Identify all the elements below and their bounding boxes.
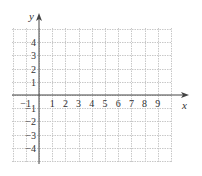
x-tick-label: 4 bbox=[89, 98, 94, 109]
x-tick-label: 5 bbox=[103, 98, 108, 109]
x-tick-label: 3 bbox=[76, 98, 81, 109]
x-tick-label: 1 bbox=[50, 98, 55, 109]
x-axis-label: x bbox=[181, 99, 187, 111]
y-tick-label: 2 bbox=[31, 64, 36, 75]
y-tick-label: −3 bbox=[25, 130, 36, 141]
y-tick-label: 4 bbox=[31, 37, 36, 48]
x-tick-label: 7 bbox=[129, 98, 134, 109]
y-tick-label: −4 bbox=[25, 143, 36, 154]
coordinate-plane: x y −1123456789 4321−1−2−3−4 bbox=[0, 0, 202, 176]
y-tick-label: −1 bbox=[25, 103, 36, 114]
y-tick-label: 1 bbox=[31, 77, 36, 88]
x-tick-labels: −1123456789 bbox=[20, 98, 160, 109]
y-tick-label: −2 bbox=[25, 116, 36, 127]
x-tick-label: 2 bbox=[63, 98, 68, 109]
y-tick-label: 3 bbox=[31, 50, 36, 61]
y-axis-label: y bbox=[28, 10, 34, 22]
x-tick-label: 8 bbox=[142, 98, 147, 109]
x-tick-label: 6 bbox=[116, 98, 121, 109]
axes: x y bbox=[12, 10, 189, 164]
x-tick-label: 9 bbox=[155, 98, 160, 109]
